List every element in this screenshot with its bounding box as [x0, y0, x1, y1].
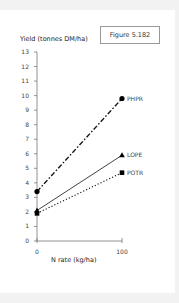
- y-tick-label: 12: [21, 63, 29, 70]
- y-tick-label: 1: [25, 222, 29, 229]
- data-point-phpr: [34, 189, 39, 194]
- data-point-lope: [119, 152, 125, 157]
- series-line-potr: [37, 173, 122, 214]
- y-tick-label: 4: [25, 179, 29, 186]
- series-line-phpr: [37, 99, 122, 192]
- data-point-potr: [120, 170, 125, 175]
- y-tick-label: 5: [25, 164, 29, 171]
- y-tick-label: 11: [21, 77, 29, 84]
- x-tick-label: 100: [116, 248, 128, 255]
- series-label-phpr: PHPR: [127, 95, 143, 102]
- series-label-lope: LOPE: [127, 151, 142, 158]
- y-tick-label: 2: [25, 208, 29, 215]
- data-point-phpr: [119, 96, 124, 101]
- y-tick-label: 0: [25, 237, 29, 244]
- y-tick-label: 7: [25, 135, 29, 142]
- x-tick-label: 0: [35, 248, 39, 255]
- x-axis-label: N rate (kg/ha): [51, 256, 96, 264]
- series-label-potr: POTR: [127, 169, 143, 176]
- y-tick-label: 8: [25, 121, 29, 128]
- y-tick-label: 9: [25, 106, 29, 113]
- line-chart: Yield (tonnes DM/ha) 012345678910111213 …: [0, 0, 179, 303]
- y-tick-label: 13: [21, 48, 29, 55]
- y-tick-label: 10: [21, 92, 29, 99]
- series-line-lope: [37, 155, 122, 210]
- y-tick-label: 3: [25, 193, 29, 200]
- y-tick-label: 6: [25, 150, 29, 157]
- data-point-potr: [35, 211, 40, 216]
- y-axis-label: Yield (tonnes DM/ha): [19, 35, 88, 43]
